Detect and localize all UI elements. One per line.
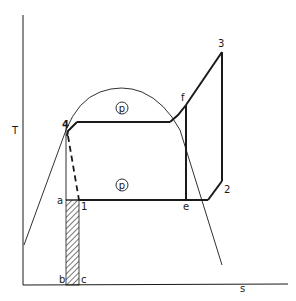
ts-diagram: p p T s 4 3 f 2 e a 1 b c bbox=[0, 0, 296, 301]
superheat-line-f-3 bbox=[170, 52, 222, 122]
point-label-b: b bbox=[59, 274, 65, 285]
point-label-e: e bbox=[183, 201, 189, 212]
svg-text:p: p bbox=[119, 180, 125, 191]
point-label-2: 2 bbox=[224, 184, 230, 195]
axis-label-s: s bbox=[240, 283, 245, 294]
point-label-c: c bbox=[81, 274, 87, 285]
svg-text:p: p bbox=[119, 103, 125, 114]
point-label-1: 1 bbox=[81, 201, 87, 212]
hatched-area bbox=[66, 200, 79, 285]
point-label-4: 4 bbox=[62, 119, 69, 130]
point-label-3: 3 bbox=[218, 38, 224, 49]
line-2-corner bbox=[208, 181, 222, 200]
diagram-canvas: p p T s 4 3 f 2 e a 1 b c bbox=[0, 0, 296, 301]
pressure-marker-upper: p bbox=[116, 102, 128, 114]
axis-label-t: T bbox=[11, 125, 19, 136]
throttle-line-4-1 bbox=[68, 136, 79, 200]
point-label-f: f bbox=[181, 92, 185, 103]
saturation-dome bbox=[24, 88, 222, 265]
pressure-marker-lower: p bbox=[116, 179, 128, 191]
point-label-a: a bbox=[57, 195, 63, 206]
